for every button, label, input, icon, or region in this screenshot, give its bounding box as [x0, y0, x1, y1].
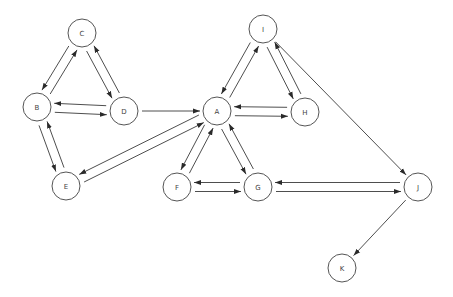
edge-line — [39, 125, 56, 171]
node-e: E — [52, 172, 80, 200]
edge-line — [189, 128, 213, 173]
edge-e-to-a — [84, 123, 204, 182]
node-label: K — [340, 265, 345, 273]
node-label: A — [215, 108, 220, 116]
node-j: J — [404, 173, 432, 201]
edge-c-to-d — [87, 51, 112, 98]
edge-j-to-k — [354, 200, 406, 256]
edge-line — [50, 50, 77, 94]
node-c: C — [68, 19, 96, 47]
edge-i-to-h — [267, 47, 293, 99]
node-label: D — [121, 108, 126, 116]
edge-line — [181, 125, 205, 170]
edge-line — [87, 51, 112, 98]
node-label: B — [35, 104, 40, 112]
edge-line — [79, 115, 199, 174]
node-i: I — [249, 15, 277, 43]
node-label: J — [416, 184, 419, 192]
node-label: I — [262, 26, 264, 34]
edge-g-to-a — [229, 124, 253, 169]
edge-line — [42, 46, 69, 90]
node-label: E — [64, 183, 68, 191]
node-a: A — [203, 97, 231, 125]
edge-line — [275, 42, 301, 94]
edge-line — [55, 112, 107, 114]
edge-d-to-b — [54, 103, 106, 105]
edge-b-to-d — [55, 112, 107, 114]
edge-line — [47, 121, 64, 167]
edge-a-to-g — [222, 129, 246, 174]
edge-line — [235, 116, 288, 117]
node-f: F — [163, 173, 191, 201]
edge-e-to-b — [47, 121, 64, 167]
edge-line — [234, 107, 287, 108]
edge-line — [267, 47, 293, 99]
edge-h-to-a — [234, 107, 287, 108]
edge-line — [354, 200, 406, 256]
edge-line — [94, 46, 119, 93]
edge-b-to-e — [39, 125, 56, 171]
edge-line — [229, 124, 253, 169]
edge-line — [222, 129, 246, 174]
node-g: G — [244, 173, 272, 201]
edge-f-to-a — [189, 128, 213, 173]
edge-b-to-c — [50, 50, 77, 94]
edge-line — [54, 103, 106, 105]
node-h: H — [291, 98, 319, 126]
edge-a-to-h — [235, 116, 288, 117]
edge-a-to-f — [181, 125, 205, 170]
node-b: B — [23, 93, 51, 121]
edge-line — [84, 123, 204, 182]
nodes-layer: ABCDEFGHIJK — [23, 15, 432, 282]
node-d: D — [110, 97, 138, 125]
edge-a-to-e — [79, 115, 199, 174]
node-label: H — [302, 109, 307, 117]
edge-h-to-i — [275, 42, 301, 94]
node-label: G — [255, 184, 260, 192]
edge-c-to-b — [42, 46, 69, 90]
edges-layer — [39, 42, 406, 256]
directed-graph: ABCDEFGHIJK — [0, 0, 453, 297]
node-label: F — [175, 184, 179, 192]
edge-d-to-c — [94, 46, 119, 93]
node-label: C — [80, 30, 85, 38]
node-k: K — [328, 254, 356, 282]
